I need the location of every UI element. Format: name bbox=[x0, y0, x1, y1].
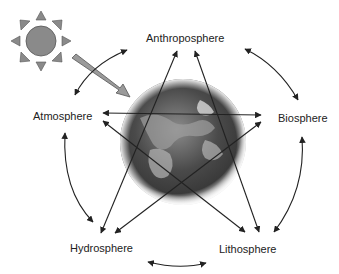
earth-systems-diagram: Anthroposphere Atmosphere Biosphere Hydr… bbox=[0, 0, 339, 274]
node-biosphere: Biosphere bbox=[278, 112, 328, 124]
arrow-anthroposphere-biosphere bbox=[245, 49, 298, 100]
node-atmosphere: Atmosphere bbox=[33, 110, 92, 122]
node-anthroposphere: Anthroposphere bbox=[146, 32, 224, 44]
sun-icon bbox=[11, 11, 71, 71]
arrow-lithosphere-hydrosphere bbox=[148, 262, 206, 266]
node-hydrosphere: Hydrosphere bbox=[70, 242, 133, 254]
arrow-biosphere-lithosphere bbox=[274, 137, 302, 232]
arrow-hydrosphere-atmosphere bbox=[65, 133, 93, 222]
node-lithosphere: Lithosphere bbox=[219, 243, 277, 255]
solar-radiation-arrow bbox=[72, 54, 130, 97]
